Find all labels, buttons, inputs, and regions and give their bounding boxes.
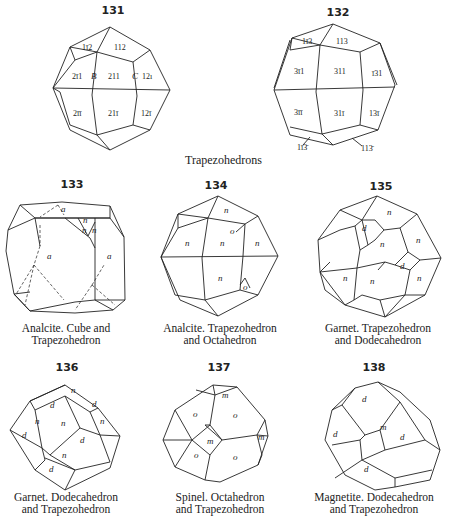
face-label: d [364, 464, 369, 474]
face-label: d [333, 429, 338, 439]
face-label: d [400, 432, 405, 442]
face-label: m [380, 422, 387, 432]
crystal-figure-138: d d m d d [0, 0, 449, 526]
caption-138: Magnetite. Dodecahedron and Trapezohedro… [299, 491, 449, 515]
dodecahedron-trapezohedron-magnetite-drawing: d d m d d [0, 0, 449, 526]
face-label: d [362, 394, 367, 404]
